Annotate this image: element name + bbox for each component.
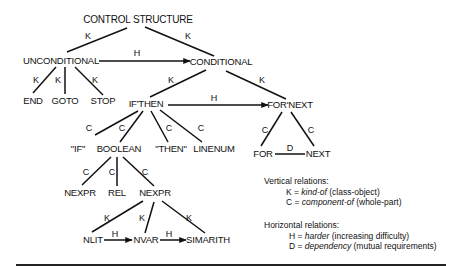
- label-k-nvar: K: [139, 214, 145, 223]
- label-k-end: K: [33, 76, 39, 85]
- label-c-next: C: [308, 126, 315, 135]
- edge-boolean-nexpr-right: [123, 157, 154, 186]
- label-c-linenum: C: [198, 124, 205, 133]
- node-for-next: FOR'NEXT: [267, 100, 313, 110]
- label-h-ifthen-fornext: H: [211, 94, 218, 103]
- label-h-nlit-nvar: H: [112, 230, 119, 239]
- node-simarith: SIMARITH: [186, 235, 230, 245]
- node-end: END: [23, 96, 42, 106]
- edge-nexpr-nvar: [145, 202, 154, 233]
- label-k-cs-unconditional: K: [85, 32, 91, 41]
- node-next: NEXT: [306, 149, 331, 159]
- node-for: FOR: [253, 149, 272, 159]
- legend-horizontal: Horizontal relations: H = harder (increa…: [264, 220, 437, 252]
- label-c-then: C: [166, 124, 173, 133]
- edge-cs-conditional: [145, 27, 214, 56]
- label-c-boolean: C: [119, 124, 126, 133]
- edge-cs-unconditional: [67, 28, 127, 52]
- node-nvar: NVAR: [134, 235, 159, 245]
- edge-ifthen-if: [95, 111, 138, 135]
- label-c-for: C: [262, 126, 269, 135]
- legend-vertical-heading: Vertical relations:: [264, 176, 402, 187]
- node-linenum: LINENUM: [193, 144, 234, 154]
- edge-conditional-fornext: [226, 71, 286, 99]
- label-c-nexpr-left: C: [83, 168, 90, 177]
- label-k-cs-conditional: K: [185, 32, 191, 41]
- edge-nexpr-nlit: [92, 201, 143, 232]
- node-rel: REL: [108, 188, 126, 198]
- legend-d-entry: D = dependency (mutual requirements): [264, 241, 437, 252]
- node-nexpr-right: NEXPR: [139, 188, 171, 198]
- node-unconditional: UNCONDITIONAL: [23, 56, 99, 66]
- node-conditional: CONDITIONAL: [190, 57, 253, 67]
- node-nlit: NLIT: [83, 235, 103, 245]
- label-k-nlit: K: [104, 214, 110, 223]
- legend-k-entry: K = kind-of (class-object): [264, 187, 402, 198]
- bottom-rule: [16, 264, 446, 266]
- label-h-unconditional-conditional: H: [134, 49, 141, 58]
- label-c-nexpr-right: C: [142, 168, 149, 177]
- label-k-goto: K: [55, 76, 61, 85]
- label-c-if: C: [86, 124, 93, 133]
- edge-unconditional-stop: [75, 67, 103, 95]
- label-h-nvar-simarith: H: [166, 230, 173, 239]
- node-if-keyword: "IF": [71, 144, 85, 154]
- node-goto: GOTO: [52, 96, 79, 106]
- label-k-stop: K: [92, 76, 98, 85]
- node-boolean: BOOLEAN: [97, 144, 142, 154]
- node-nexpr-left: NEXPR: [64, 188, 96, 198]
- label-k-simarith: K: [186, 214, 192, 223]
- edge-conditional-ifthen: [150, 70, 206, 97]
- node-then-keyword: "THEN": [155, 144, 186, 154]
- label-d-for-next: D: [287, 144, 294, 153]
- node-control-structure: CONTROL STRUCTURE: [83, 15, 193, 25]
- label-k-conditional-fornext: K: [259, 76, 265, 85]
- legend-horizontal-heading: Horizontal relations:: [264, 220, 437, 231]
- legend-vertical: Vertical relations: K = kind-of (class-o…: [264, 176, 402, 208]
- legend-c-entry: C = component-of (whole-part): [264, 197, 402, 208]
- legend-h-entry: H = harder (increasing difficulty): [264, 231, 437, 242]
- node-if-then: IF'THEN: [129, 99, 164, 109]
- label-k-conditional-ifthen: K: [168, 76, 174, 85]
- label-c-rel: C: [109, 168, 116, 177]
- node-stop: STOP: [91, 96, 116, 106]
